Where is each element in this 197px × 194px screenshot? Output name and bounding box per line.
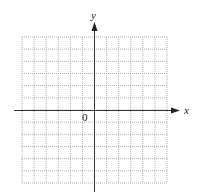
x-axis-arrow-icon xyxy=(171,108,180,114)
x-axis-label: x xyxy=(183,104,189,116)
origin-label: 0 xyxy=(82,111,88,123)
y-axis-arrow-icon xyxy=(92,22,98,31)
coordinate-plane-svg: x y 0 xyxy=(0,0,197,194)
y-axis-label: y xyxy=(90,9,96,21)
coordinate-plane-diagram: x y 0 xyxy=(0,0,197,194)
